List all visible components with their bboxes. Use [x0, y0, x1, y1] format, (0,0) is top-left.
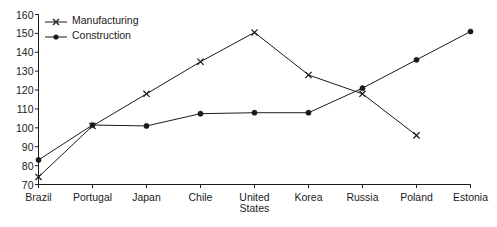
chart-legend: Manufacturing Construction: [44, 13, 139, 43]
y-axis-tick-label: 130: [2, 66, 34, 77]
x-axis-tick-label: Russia: [346, 192, 378, 203]
legend-marker-x-cross-icon: [44, 14, 68, 26]
y-axis-tick-label: 100: [2, 122, 34, 133]
y-axis-tick-label: 90: [2, 141, 34, 152]
x-axis-tick-label-line: Poland: [400, 192, 433, 203]
x-axis-tick-label: Brazil: [25, 192, 51, 203]
y-axis-tick-label: 120: [2, 85, 34, 96]
x-axis-tick-label: Portugal: [73, 192, 112, 203]
legend-item-construction: Construction: [44, 28, 139, 42]
y-axis-tick-label: 160: [2, 9, 34, 20]
y-axis-tick-label: 80: [2, 160, 34, 171]
y-axis-tick-label: 140: [2, 47, 34, 58]
line-chart: 708090100110120130140150160 BrazilPortug…: [0, 0, 497, 227]
legend-label-construction: Construction: [72, 29, 131, 41]
x-axis-tick-label-line: Portugal: [73, 192, 112, 203]
y-axis-tick-label: 110: [2, 103, 34, 114]
chart-series-layer: [35, 29, 473, 180]
y-axis-tick-label: 70: [2, 179, 34, 190]
x-axis-tick-label: Poland: [400, 192, 433, 203]
x-axis-tick-label-line: Korea: [294, 192, 322, 203]
x-axis-tick-label: Korea: [294, 192, 322, 203]
x-axis-tick-label: UnitedStates: [239, 192, 269, 214]
legend-label-manufacturing: Manufacturing: [72, 14, 139, 26]
x-axis-tick-label: Chile: [189, 192, 213, 203]
x-axis-tick-label-line: States: [239, 203, 269, 214]
chart-series-manufacturing: [35, 29, 419, 180]
x-axis-tick-label: Japan: [132, 192, 161, 203]
x-axis-tick-label-line: Chile: [189, 192, 213, 203]
chart-series-construction: [36, 29, 473, 163]
x-axis-tick-label-line: Estonia: [453, 192, 488, 203]
x-axis-tick-label-line: Brazil: [25, 192, 51, 203]
y-axis-tick-label: 150: [2, 28, 34, 39]
x-axis-tick-label-line: Japan: [132, 192, 161, 203]
x-axis-tick-label-line: Russia: [346, 192, 378, 203]
x-axis-tick-label: Estonia: [453, 192, 488, 203]
legend-item-manufacturing: Manufacturing: [44, 13, 139, 27]
legend-marker-filled-circle-icon: [44, 29, 68, 41]
